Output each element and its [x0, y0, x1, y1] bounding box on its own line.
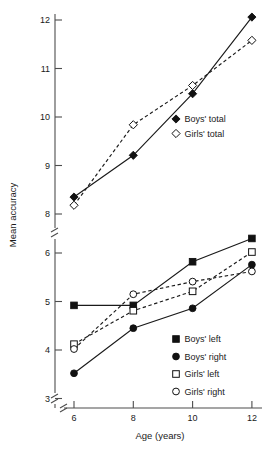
legend-totals: Boys' totalGirls' total [172, 114, 226, 139]
legend-item-label: Girls' right [185, 387, 226, 397]
legend-item-label: Girls' total [185, 129, 225, 139]
y-tick-group: 121110986543 [40, 15, 62, 404]
data-point-marker [71, 370, 78, 377]
y-tick-label: 9 [45, 161, 50, 171]
series-girls-left [71, 249, 256, 348]
data-point-marker [71, 346, 78, 353]
series-boys-total [70, 13, 256, 201]
data-point-marker [189, 258, 196, 265]
data-point-marker [249, 268, 256, 275]
data-point-marker [70, 193, 78, 201]
legend-item-label: Boys' left [185, 334, 222, 344]
data-point-marker [71, 302, 78, 309]
y-tick-label: 5 [45, 297, 50, 307]
data-point-marker [130, 291, 137, 298]
data-point-marker [70, 201, 78, 209]
y-tick-label: 10 [40, 112, 50, 122]
data-point-marker [173, 336, 180, 343]
data-point-marker [130, 307, 137, 314]
data-point-marker [173, 371, 180, 378]
legend-item-label: Boys' right [185, 352, 227, 362]
x-axis-break [60, 404, 67, 412]
y-tick-label: 12 [40, 15, 50, 25]
y-axis-title: Mean accuracy [7, 183, 18, 248]
x-tick-label: 6 [71, 413, 76, 423]
data-point-marker [173, 353, 180, 360]
line-chart-canvas: 121110986543681012Age (years)Mean accura… [0, 0, 268, 449]
x-tick-label: 12 [247, 413, 257, 423]
series-line [74, 238, 252, 305]
x-axis-title: Age (years) [135, 430, 184, 441]
data-point-marker [130, 325, 137, 332]
series-boys-right [71, 261, 256, 376]
y-axis-break-upper [51, 228, 58, 237]
data-point-marker [249, 261, 256, 268]
series-line [74, 252, 252, 344]
data-point-marker [249, 249, 256, 256]
series-boys-left [71, 235, 256, 309]
data-point-marker [172, 115, 180, 123]
x-tick-label: 10 [188, 413, 198, 423]
data-point-marker [189, 305, 196, 312]
axes-group [51, 14, 262, 412]
x-tick-label: 8 [131, 413, 136, 423]
data-point-marker [129, 121, 137, 129]
y-tick-label: 3 [45, 394, 50, 404]
data-point-marker [189, 288, 196, 295]
data-point-marker [249, 235, 256, 242]
x-tick-group: 681012 [71, 401, 256, 423]
y-tick-label: 8 [45, 209, 50, 219]
y-tick-label: 6 [45, 248, 50, 258]
series-girls-total [70, 36, 256, 209]
series-line [74, 17, 252, 197]
data-point-marker [172, 129, 180, 137]
chart-figure: 121110986543681012Age (years)Mean accura… [0, 0, 268, 449]
y-tick-label: 11 [41, 64, 50, 74]
data-point-marker [189, 278, 196, 285]
series-girls-right [71, 268, 256, 352]
y-tick-label: 4 [45, 345, 50, 355]
legend-item-label: Girls' left [185, 369, 220, 379]
legend-item-label: Boys' total [185, 114, 226, 124]
legend-hands: Boys' leftBoys' rightGirls' leftGirls' r… [173, 334, 227, 397]
data-point-marker [173, 388, 180, 395]
